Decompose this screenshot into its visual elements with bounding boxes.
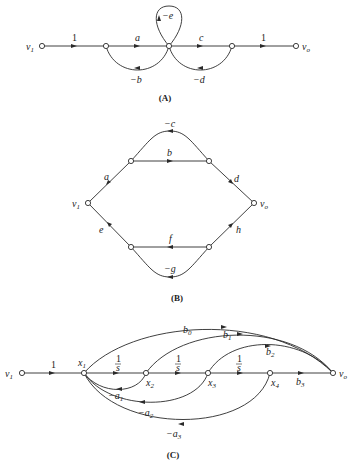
gain-self-e: −e [162, 10, 174, 21]
gain-b1: b1 [223, 329, 232, 342]
arrow-icon [298, 371, 304, 375]
label-x3: x3 [207, 377, 216, 390]
arrow-icon [49, 371, 55, 375]
arrow-icon [197, 66, 203, 70]
diagram-c: v1 x1 x2 x3 x4 vo 1 1 s 1 s 1 s b0 b1 b2… [5, 324, 347, 460]
node [103, 43, 108, 48]
node-v1 [39, 43, 44, 48]
node [206, 244, 211, 249]
arrow-icon [157, 15, 161, 21]
arrow-icon [139, 400, 145, 404]
gain-d: −d [193, 74, 206, 85]
node [166, 43, 171, 48]
gain-c: c [199, 32, 204, 43]
node [128, 244, 133, 249]
label-x4: x4 [270, 377, 279, 390]
gain-a3: −a3 [166, 428, 182, 441]
gain-in: 1 [72, 32, 77, 43]
arrow-icon [71, 44, 77, 48]
node-x4 [267, 370, 272, 375]
gain-c: −c [164, 118, 176, 129]
gain-a2: −a2 [138, 407, 154, 420]
arrow-icon [134, 66, 140, 70]
diagram-a: v1 vo 1 a c 1 −e −b −d (A) [26, 6, 310, 103]
arrow-icon [167, 129, 173, 133]
label-v1: v1 [72, 198, 80, 211]
node-v1 [85, 200, 90, 205]
arrow-icon [197, 44, 203, 48]
node [206, 158, 211, 163]
svg-text:s: s [237, 362, 241, 373]
label-x1: x1 [77, 357, 86, 370]
node-vo [251, 200, 256, 205]
node-x1 [81, 370, 86, 375]
gain-b2: b2 [266, 346, 275, 359]
gain-h: h [236, 224, 241, 235]
arrow-icon [167, 159, 173, 163]
label-vo: vo [260, 198, 268, 211]
gain-int2: 1 s [175, 353, 181, 373]
node-v1 [19, 370, 24, 375]
gain-in: 1 [51, 359, 56, 370]
gain-a: a [135, 32, 140, 43]
gain-int3: 1 s [236, 353, 242, 373]
a-feedback-d [169, 46, 232, 70]
node-x3 [205, 370, 210, 375]
node-vo [330, 370, 335, 375]
gain-d: d [234, 173, 240, 184]
caption-b: (B) [171, 293, 183, 303]
arrow-icon [167, 275, 173, 279]
arrow-icon [260, 44, 266, 48]
node [128, 158, 133, 163]
gain-b: −b [130, 74, 142, 85]
a-feedback-b [106, 46, 169, 70]
gain-a: a [104, 171, 109, 182]
diagram-b: v1 vo a b −c d e f −g h (B) [72, 118, 268, 303]
gain-b0: b0 [183, 324, 192, 337]
arrow-icon [167, 245, 173, 249]
node-x2 [143, 370, 148, 375]
node-vo [293, 43, 298, 48]
gain-f: f [169, 233, 173, 244]
arrow-icon [178, 422, 184, 426]
signal-flow-graphs: v1 vo 1 a c 1 −e −b −d (A) [0, 0, 359, 467]
c-edge-b0 [84, 329, 333, 373]
label-v1: v1 [5, 368, 13, 381]
node [229, 43, 234, 48]
gain-b3: b3 [296, 376, 305, 389]
svg-text:s: s [116, 362, 120, 373]
label-x2: x2 [145, 377, 154, 390]
gain-int1: 1 s [115, 353, 121, 373]
caption-a: (A) [159, 93, 172, 103]
label-v1: v1 [26, 41, 34, 54]
label-vo: vo [339, 368, 347, 381]
gain-e: e [99, 224, 104, 235]
arrow-icon [134, 44, 140, 48]
gain-out: 1 [261, 32, 266, 43]
gain-g: −g [164, 263, 176, 274]
gain-b: b [167, 147, 172, 158]
label-vo: vo [302, 41, 310, 54]
caption-c: (C) [167, 450, 180, 460]
svg-text:s: s [176, 362, 180, 373]
